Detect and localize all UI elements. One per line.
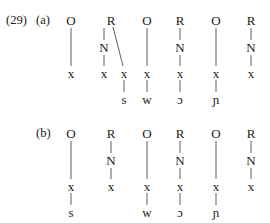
example-number: (29) xyxy=(6,13,27,27)
onset-node: O xyxy=(66,126,75,141)
panel-label: (b) xyxy=(36,126,51,140)
syllable-structure-diagram: (29) (a) OxRNxxsOxwRNxɔOxɲRNx (b) OxsRNx… xyxy=(0,0,270,223)
skeletal-slot: x xyxy=(213,179,220,194)
onset-node: O xyxy=(66,13,75,28)
rhyme-column: RNxɔ xyxy=(175,126,185,220)
nucleus-node: N xyxy=(246,153,256,168)
branching-line xyxy=(113,27,123,66)
skeletal-slot: x xyxy=(213,66,220,81)
onset-column: Ox xyxy=(66,13,75,81)
skeletal-slot: x xyxy=(248,179,255,194)
segment: ɔ xyxy=(177,92,183,107)
rhyme-node: R xyxy=(176,126,185,141)
skeletal-slot: x xyxy=(144,66,151,81)
skeletal-slot: x xyxy=(177,66,184,81)
rhyme-node: R xyxy=(107,13,116,28)
onset-node: O xyxy=(142,126,151,141)
segment: w xyxy=(142,92,152,107)
rhyme-column: RNxɔ xyxy=(175,13,185,107)
panel-a: (a) OxRNxxsOxwRNxɔOxɲRNx xyxy=(36,13,256,107)
rhyme-column: RNx xyxy=(246,126,256,194)
skeletal-slot: x xyxy=(68,66,75,81)
rhyme-node: R xyxy=(176,13,185,28)
onset-node: O xyxy=(211,13,220,28)
onset-column: Oxɲ xyxy=(211,13,220,107)
rhyme-column: RNxxs xyxy=(99,13,127,107)
rhyme-column: RNx xyxy=(246,13,256,81)
rhyme-node: R xyxy=(107,126,116,141)
skeletal-slot: x xyxy=(68,179,75,194)
segment: s xyxy=(121,92,126,107)
skeletal-slot: x xyxy=(108,179,115,194)
segment: s xyxy=(68,205,73,220)
segment: w xyxy=(142,205,152,220)
rhyme-node: R xyxy=(247,13,256,28)
nucleus-node: N xyxy=(246,40,256,55)
onset-column: Oxw xyxy=(142,126,152,220)
skeletal-slot: x xyxy=(101,66,108,81)
rhyme-node: R xyxy=(247,126,256,141)
nucleus-node: N xyxy=(106,153,116,168)
onset-column: Oxs xyxy=(66,126,75,220)
skeletal-slot: x xyxy=(177,179,184,194)
segment: ɔ xyxy=(177,205,183,220)
panel-label: (a) xyxy=(36,13,50,27)
skeletal-slot: x xyxy=(121,66,128,81)
onset-node: O xyxy=(211,126,220,141)
segment: ɲ xyxy=(212,205,220,220)
onset-column: Oxɲ xyxy=(211,126,220,220)
panel-b: (b) OxsRNxOxwRNxɔOxɲRNx xyxy=(36,126,256,220)
nucleus-node: N xyxy=(175,153,185,168)
skeletal-slot: x xyxy=(248,66,255,81)
segment: ɲ xyxy=(212,92,220,107)
rhyme-column: RNx xyxy=(106,126,116,194)
skeletal-slot: x xyxy=(144,179,151,194)
nucleus-node: N xyxy=(99,40,109,55)
onset-column: Oxw xyxy=(142,13,152,107)
onset-node: O xyxy=(142,13,151,28)
nucleus-node: N xyxy=(175,40,185,55)
